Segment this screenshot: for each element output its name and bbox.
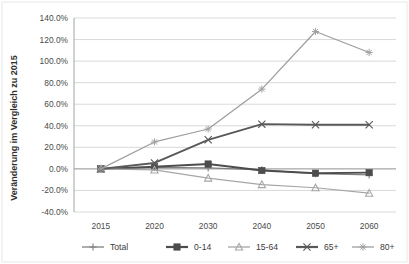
series-65plus <box>97 121 373 173</box>
line-chart: 140.0%120.0%100.0%80.0%60.0%40.0%20.0%0.… <box>0 0 409 264</box>
legend-item-65plus[interactable]: 65+ <box>296 242 339 252</box>
y-tick-label: -40.0% <box>41 207 68 217</box>
x-tick-label: 2040 <box>253 221 272 231</box>
series-total <box>97 164 373 179</box>
y-axis-title: Veränderung im Vergleich zu 2015 <box>9 55 19 201</box>
gridlines-group <box>74 18 396 212</box>
x-tick-label: 2020 <box>145 221 164 231</box>
data-point-marker <box>259 167 265 173</box>
series-15-64 <box>97 165 373 196</box>
series-80plus <box>97 28 373 173</box>
x-tick-label: 2050 <box>306 221 325 231</box>
y-tick-label: 40.0% <box>44 121 68 131</box>
legend-item-total[interactable]: Total <box>82 242 128 252</box>
y-tick-label: 100.0% <box>40 56 69 66</box>
chart-legend: Total0-1415-6465+80+ <box>82 242 395 252</box>
series-line <box>101 31 369 168</box>
legend-item-15-64[interactable]: 15-64 <box>228 242 278 252</box>
y-tick-label: 80.0% <box>44 78 68 88</box>
chart-container: 140.0%120.0%100.0%80.0%60.0%40.0%20.0%0.… <box>0 0 409 264</box>
data-point-marker <box>97 165 104 172</box>
x-tick-label: 2060 <box>360 221 379 231</box>
y-tick-label: -20.0% <box>41 185 68 195</box>
data-point-marker <box>151 138 158 145</box>
data-point-marker <box>312 170 318 176</box>
legend-label: 0-14 <box>194 242 211 252</box>
y-tick-label: 120.0% <box>40 35 69 45</box>
legend-label: 65+ <box>324 242 339 252</box>
legend-label: 80+ <box>380 242 395 252</box>
data-point-marker <box>174 244 180 250</box>
x-tick-label: 2015 <box>92 221 111 231</box>
y-tick-label: 0.0% <box>49 164 69 174</box>
x-tick-label: 2030 <box>199 221 218 231</box>
legend-label: 15-64 <box>256 242 278 252</box>
x-axis-tick-labels: 201520202030204020502060 <box>92 221 379 231</box>
y-tick-label: 60.0% <box>44 99 68 109</box>
data-point-marker <box>366 49 373 56</box>
data-point-marker <box>359 243 366 250</box>
data-point-marker <box>205 125 212 132</box>
legend-item-0-14[interactable]: 0-14 <box>166 242 211 252</box>
y-axis-tick-labels: 140.0%120.0%100.0%80.0%60.0%40.0%20.0%0.… <box>40 13 69 217</box>
legend-label: Total <box>110 242 128 252</box>
data-point-marker <box>258 86 265 93</box>
data-point-marker <box>205 161 211 167</box>
series-line <box>101 124 369 169</box>
data-point-marker <box>312 28 319 35</box>
data-point-marker <box>89 243 96 250</box>
legend-item-80plus[interactable]: 80+ <box>352 242 395 252</box>
y-tick-label: 140.0% <box>40 13 69 23</box>
data-series-group <box>97 28 373 196</box>
data-point-marker <box>366 169 372 175</box>
y-tick-label: 20.0% <box>44 142 68 152</box>
